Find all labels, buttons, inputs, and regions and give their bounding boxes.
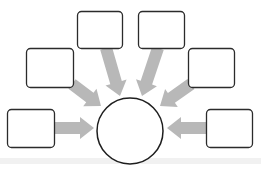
hub-and-spoke-diagram	[0, 0, 261, 172]
box-top-right	[139, 12, 185, 49]
box-bottom-left	[8, 110, 55, 148]
center-layer	[97, 98, 163, 164]
box-bottom-left-shape	[8, 110, 55, 148]
center-circle	[97, 98, 163, 164]
box-top-left	[78, 12, 123, 49]
box-top-left-shape	[78, 12, 123, 49]
box-mid-left	[27, 49, 74, 88]
box-mid-left-shape	[27, 49, 74, 88]
box-mid-right-shape	[189, 49, 235, 88]
box-bottom-right	[207, 110, 253, 148]
box-bottom-right-shape	[207, 110, 253, 148]
box-top-right-shape	[139, 12, 185, 49]
box-mid-right	[189, 49, 235, 88]
